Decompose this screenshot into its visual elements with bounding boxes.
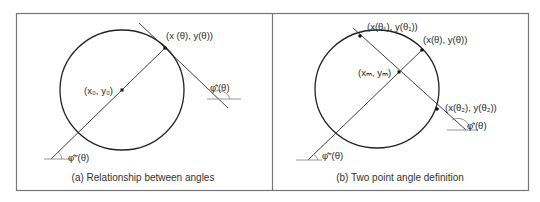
point-theta-b — [420, 48, 424, 52]
phi-double-prime-arc-a — [58, 152, 62, 159]
label-point-theta-b: (x(θ), y(θ)) — [423, 34, 467, 45]
midpoint-b — [398, 71, 401, 74]
label-phi-prime-a: φ̂′(θ) — [210, 82, 230, 93]
diagram-canvas: (x (θ), y(θ)) (x₀, y₀) φ̂′(θ) φ̂″(θ) (a)… — [0, 0, 540, 202]
label-point-theta-a: (x (θ), y(θ)) — [166, 30, 213, 41]
label-midpoint-b: (xₘ, yₘ) — [358, 67, 391, 78]
caption-b: (b) Two point angle definition — [336, 172, 464, 183]
radial-line-a — [51, 48, 165, 159]
label-phi-double-prime-b: φ̂″(θ) — [322, 150, 343, 161]
label-phi-double-prime-a: φ̂″(θ) — [68, 152, 89, 163]
figure: (x (θ), y(θ)) (x₀, y₀) φ̂′(θ) φ̂″(θ) (a)… — [0, 0, 540, 202]
center-point-a — [121, 89, 124, 92]
point-theta-a — [163, 46, 167, 50]
label-center-a: (x₀, y₀) — [84, 85, 113, 96]
panel-b: (x(θ₁), y(θ₁)) (x(θ), y(θ)) (xₘ, yₘ) (x(… — [296, 21, 497, 183]
label-point-theta1-b: (x(θ₁), y(θ₁)) — [367, 21, 418, 32]
point-theta2-b — [435, 107, 439, 111]
phi-double-prime-arc-b — [313, 154, 318, 160]
caption-a: (a) Relationship between angles — [72, 172, 215, 183]
label-point-theta2-b: (x(θ₂), y(θ₂)) — [445, 102, 497, 113]
panel-a: (x (θ), y(θ)) (x₀, y₀) φ̂′(θ) φ̂″(θ) (a)… — [44, 23, 241, 183]
point-theta1-b — [358, 34, 362, 38]
label-phi-prime-b: φ̂′(θ) — [467, 120, 487, 131]
